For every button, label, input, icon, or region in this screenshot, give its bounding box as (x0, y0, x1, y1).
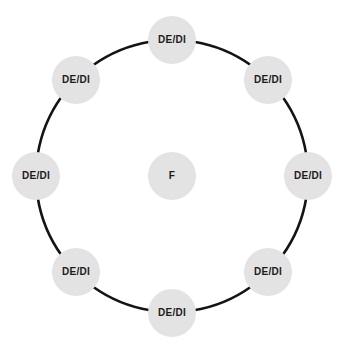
center-node-f[interactable]: F (148, 152, 196, 200)
node-de-di-top[interactable]: DE/DI (148, 16, 196, 64)
node-de-di-top-right-label: DE/DI (254, 75, 282, 85)
node-de-di-left[interactable]: DE/DI (12, 152, 60, 200)
node-de-di-top-left[interactable]: DE/DI (52, 56, 100, 104)
node-de-di-right-label: DE/DI (294, 171, 322, 181)
ring-arc-segment (194, 42, 251, 66)
ring-arc-segment (282, 198, 306, 255)
center-node-f-label: F (169, 171, 175, 181)
ring-arc-segment (38, 97, 62, 154)
node-de-di-bottom-right-label: DE/DI (254, 267, 282, 277)
node-de-di-bottom-left[interactable]: DE/DI (52, 248, 100, 296)
node-de-di-top-right[interactable]: DE/DI (244, 56, 292, 104)
ring-arc-segment (38, 198, 62, 255)
node-de-di-right[interactable]: DE/DI (284, 152, 332, 200)
node-de-di-bottom-right[interactable]: DE/DI (244, 248, 292, 296)
node-de-di-left-label: DE/DI (22, 171, 50, 181)
ring-arc-segment (194, 286, 251, 310)
ring-arc-segment (93, 42, 150, 66)
ring-diagram: DE/DIDE/DIDE/DIDE/DIDE/DIDE/DIDE/DIDE/DI… (0, 0, 344, 346)
ring-arc-segment (282, 97, 306, 154)
node-de-di-top-left-label: DE/DI (62, 75, 90, 85)
node-de-di-top-label: DE/DI (158, 35, 186, 45)
ring-arc-segment (93, 286, 150, 310)
node-de-di-bottom-left-label: DE/DI (62, 267, 90, 277)
node-de-di-bottom-label: DE/DI (158, 308, 186, 318)
node-de-di-bottom[interactable]: DE/DI (148, 289, 196, 337)
